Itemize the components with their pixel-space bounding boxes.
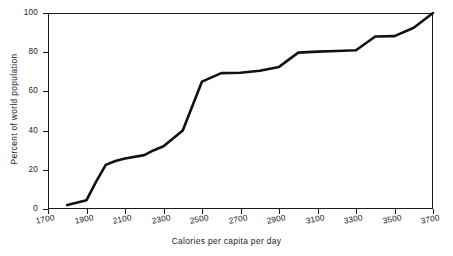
x-tick-label: 2100 [112,213,132,226]
y-tick [43,131,48,132]
x-tick-label: 3100 [305,213,325,226]
x-tick-label: 3700 [420,213,440,226]
y-tick-label: 0 [12,204,38,213]
y-tick [43,91,48,92]
y-tick [43,52,48,53]
y-tick-label: 100 [12,8,38,17]
x-tick-label: 2500 [189,213,209,226]
y-tick [43,13,48,14]
y-tick [43,170,48,171]
series-polyline [67,13,433,205]
x-tick-label: 1700 [35,213,55,226]
x-tick-label: 3300 [343,213,363,226]
data-series-line [48,13,433,209]
x-axis-title: Calories per capita per day [0,236,453,246]
chart-figure: 1700190021002300250027002900310033003500… [0,0,453,256]
x-tick-label: 2900 [266,213,286,226]
x-tick-label: 1900 [74,213,94,226]
x-tick-label: 3500 [382,213,402,226]
x-tick-label: 2700 [228,213,248,226]
y-axis-title: Percent of world population [9,21,19,197]
x-tick-label: 2300 [151,213,171,226]
y-tick [43,209,48,210]
